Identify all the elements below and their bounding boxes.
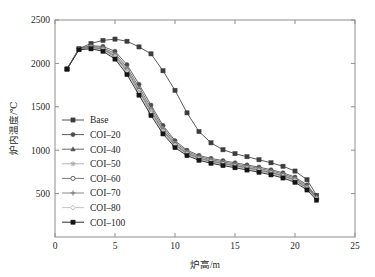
chart-legend: BaseCOI–20COI–40COI–50COI–60COI–70COI–80… xyxy=(62,115,126,227)
y-axis-title: 炉内温度/℃ xyxy=(8,101,19,155)
legend-item-coi-80[interactable]: COI–80 xyxy=(62,203,121,213)
x-axis-tick-labels: 0510152025 xyxy=(53,241,360,251)
y-tick-label: 2000 xyxy=(31,59,50,69)
y-axis-tick-labels: 5001000150020002500 xyxy=(31,15,50,199)
legend-label: COI–100 xyxy=(90,218,126,228)
line-chart: 0510152025 5001000150020002500 BaseCOI–2… xyxy=(0,0,375,277)
legend-label: Base xyxy=(90,115,108,125)
y-tick-label: 2500 xyxy=(31,15,50,25)
legend-label: COI–70 xyxy=(90,188,121,198)
legend-item-coi-50[interactable]: COI–50 xyxy=(62,159,121,169)
legend-item-coi-100[interactable]: COI–100 xyxy=(62,218,126,228)
x-tick-label: 15 xyxy=(230,241,240,251)
x-axis-title: 炉高/m xyxy=(190,259,221,270)
legend-label: COI–60 xyxy=(90,174,121,184)
legend-item-coi-70[interactable]: COI–70 xyxy=(62,188,121,198)
y-tick-label: 1000 xyxy=(31,146,50,156)
legend-item-coi-40[interactable]: COI–40 xyxy=(62,145,121,155)
legend-item-base[interactable]: Base xyxy=(62,115,108,125)
legend-label: COI–40 xyxy=(90,145,121,155)
legend-label: COI–80 xyxy=(90,203,121,213)
legend-item-coi-60[interactable]: COI–60 xyxy=(62,174,121,184)
y-tick-label: 1500 xyxy=(31,102,50,112)
x-tick-label: 20 xyxy=(290,241,300,251)
legend-item-coi-20[interactable]: COI–20 xyxy=(62,130,121,140)
chart-figure: 0510152025 5001000150020002500 BaseCOI–2… xyxy=(0,0,375,277)
y-tick-label: 500 xyxy=(36,189,51,199)
x-tick-label: 0 xyxy=(53,241,58,251)
x-tick-label: 5 xyxy=(113,241,118,251)
legend-label: COI–50 xyxy=(90,159,121,169)
x-tick-label: 25 xyxy=(350,241,360,251)
legend-label: COI–20 xyxy=(90,130,121,140)
x-tick-label: 10 xyxy=(170,241,180,251)
